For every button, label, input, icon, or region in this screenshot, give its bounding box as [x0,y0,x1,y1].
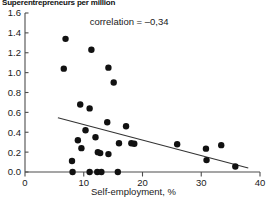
y-tick-label: 0.0 [8,166,21,177]
data-point [82,127,88,133]
data-point [131,140,137,146]
data-point [86,169,92,175]
data-point [78,145,84,151]
y-axis-tick-labels: 0.00.20.40.60.81.01.21.41.6 [8,7,21,177]
data-point [218,142,224,148]
y-tick-label: 0.2 [8,147,21,158]
y-tick-label: 0.4 [8,127,21,138]
data-point [62,36,68,42]
data-point [86,105,92,111]
data-point [75,137,81,143]
plot-area: 0.00.20.40.60.81.01.21.41.6 010203040 co… [0,0,267,202]
data-point [97,150,103,156]
data-point [98,169,104,175]
data-point [111,79,117,85]
data-point [69,169,75,175]
axis-tick-marks [25,13,260,177]
data-point [69,158,75,164]
data-point [116,140,122,146]
data-point [105,64,111,70]
data-point [174,141,180,147]
x-axis-title: Self-employment, % [0,186,267,197]
data-point [105,151,111,157]
data-point [92,134,98,140]
data-point [123,123,129,129]
y-tick-label: 1.6 [8,7,21,18]
data-point [77,101,83,107]
data-points-group [61,36,239,176]
data-point [115,169,121,175]
annotations-group: correlation = –0,34 [90,16,169,27]
scatter-plot-figure: Superentrepreneurs per million 0.00.20.4… [0,0,267,202]
data-point [203,145,209,151]
y-tick-label: 1.2 [8,47,21,58]
y-tick-label: 1.0 [8,67,21,78]
data-point [104,119,110,125]
y-tick-label: 1.4 [8,27,21,38]
correlation-annotation: correlation = –0,34 [90,16,169,27]
data-point [232,163,238,169]
data-point [88,47,94,53]
data-point [61,65,67,71]
y-tick-label: 0.6 [8,107,21,118]
y-tick-label: 0.8 [8,87,21,98]
data-point [203,157,209,163]
